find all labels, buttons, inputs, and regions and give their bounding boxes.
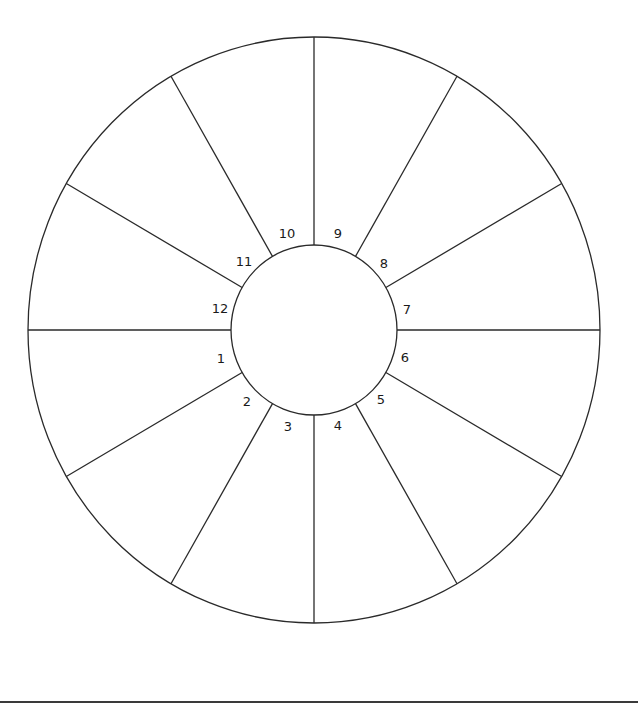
house-number-2: 2 (243, 394, 251, 409)
house-number-1: 1 (217, 351, 225, 366)
house-cusp-line (386, 373, 562, 477)
house-number-3: 3 (284, 419, 292, 434)
house-number-7: 7 (403, 302, 411, 317)
house-number-4: 4 (334, 418, 342, 433)
house-cusp-line (171, 76, 273, 256)
inner-circle (231, 245, 397, 415)
house-number-11: 11 (236, 254, 253, 269)
house-number-6: 6 (401, 350, 409, 365)
house-cusp-line (386, 184, 562, 288)
house-number-10: 10 (279, 226, 296, 241)
house-cusp-line (356, 76, 458, 256)
house-cusp-line (66, 184, 242, 288)
house-cusp-line (171, 404, 273, 584)
house-number-9: 9 (334, 226, 342, 241)
bottom-divider-rule (0, 701, 638, 703)
house-cusp-line (356, 404, 458, 584)
house-number-12: 12 (212, 301, 229, 316)
house-wheel-diagram: 123456789101112 (0, 0, 638, 707)
house-number-8: 8 (380, 256, 388, 271)
house-cusp-line (66, 373, 242, 477)
house-number-5: 5 (377, 392, 385, 407)
